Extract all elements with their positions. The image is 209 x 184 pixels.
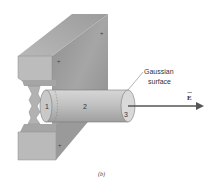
gaussian-surface-diagram: + + + 1 2 3 E Gaussian surface (b) [0, 0, 209, 184]
region-label-3: 3 [124, 111, 128, 118]
field-label: E [187, 94, 192, 102]
cylinder-body [46, 90, 128, 122]
gaussian-cylinder: 1 2 3 [40, 90, 135, 122]
conductor-slab: + + + [18, 14, 108, 160]
slab-ledge-lower [20, 124, 56, 132]
annotation-leader-line [128, 72, 143, 90]
figure-caption: (b) [98, 171, 105, 178]
annotation-line2: surface [148, 78, 171, 85]
arrow-head-icon [196, 102, 204, 110]
region-label-1: 1 [45, 103, 49, 110]
region-label-2: 2 [83, 103, 87, 110]
slab-ledge-upper [22, 80, 56, 86]
electric-field-arrow: E [128, 93, 204, 111]
annotation-line1: Gaussian [144, 68, 174, 75]
slab-front-lower [18, 132, 56, 160]
slab-cut-neck [28, 86, 41, 124]
slab-front-upper [18, 56, 52, 82]
gaussian-surface-annotation: Gaussian surface [128, 68, 174, 90]
